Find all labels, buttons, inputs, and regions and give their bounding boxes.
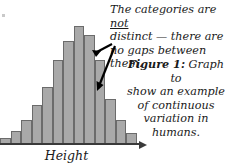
histogram-bar <box>53 60 64 144</box>
histogram-bar <box>42 87 53 144</box>
histogram-bar <box>21 120 32 144</box>
x-axis-line <box>0 143 140 145</box>
caption-label: Figure 1: <box>128 57 185 71</box>
caption-line2: show an example <box>127 85 225 98</box>
caption-line4: variation in humans. <box>144 112 209 139</box>
x-axis-label: Height <box>0 148 133 163</box>
callout-line2: distinct — there are <box>110 30 223 43</box>
caption-line3: of continuous <box>138 99 215 112</box>
histogram-bar <box>95 60 106 144</box>
x-axis-arrow-icon <box>139 141 147 149</box>
figure-caption: Figure 1: Graph to show an example of co… <box>122 58 230 140</box>
histogram-bar <box>63 41 74 144</box>
histogram-bar <box>74 26 85 144</box>
figure-container: Height The categories are not distinct —… <box>0 0 230 167</box>
callout-line1-pre: The categories are <box>110 3 216 16</box>
histogram-bar <box>84 35 95 144</box>
histogram-bar <box>105 99 116 144</box>
callout-emphasis-not: not <box>110 17 128 30</box>
histogram-bar <box>32 105 43 144</box>
